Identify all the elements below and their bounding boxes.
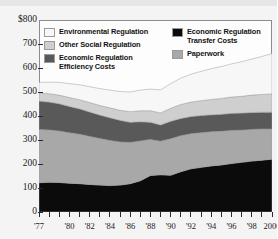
x-axis-labels: '77'80'82'84'86'88'90'92'94'96'982000 [0, 218, 277, 236]
y-axis-labels: $8007006005004003002001000 [0, 6, 37, 239]
legend-label-line2: Transfer Costs [187, 36, 237, 45]
y-tick-label: 200 [1, 158, 37, 168]
y-tick-mark [38, 116, 43, 117]
x-tick-mark [79, 212, 80, 217]
x-tick-mark [69, 212, 70, 217]
x-tick-mark [231, 212, 232, 217]
x-tick-mark [120, 212, 121, 217]
x-tick-mark [251, 212, 252, 217]
legend-swatch [44, 28, 55, 37]
x-tick-mark [49, 212, 50, 217]
x-tick-label: '80 [64, 221, 74, 231]
x-tick-label: '94 [206, 221, 216, 231]
legend-swatch [44, 41, 55, 50]
x-tick-mark [261, 212, 262, 217]
x-tick-mark [211, 212, 212, 217]
legend-label: Other Social Regulation [59, 40, 140, 49]
x-tick-mark [241, 212, 242, 217]
x-tick-label: '96 [226, 221, 236, 231]
y-tick-mark [38, 164, 43, 165]
x-tick-mark [190, 212, 191, 217]
legend-swatch [172, 50, 183, 59]
legend-label: Economic Regulation [59, 53, 133, 62]
y-tick-mark [38, 188, 43, 189]
y-tick-label: 300 [1, 134, 37, 144]
x-tick-mark [130, 212, 131, 217]
chart-legend: Environmental RegulationOther Social Reg… [44, 27, 269, 75]
legend-label: Paperwork [187, 49, 224, 58]
x-tick-mark [201, 212, 202, 217]
x-tick-mark [89, 212, 90, 217]
x-tick-label: '86 [125, 221, 135, 231]
stacked-area-chart: $8007006005004003002001000 '77'80'82'84'… [0, 6, 277, 239]
legend-label-line2: Efficiency Costs [59, 62, 115, 71]
x-tick-label: '84 [105, 221, 115, 231]
y-tick-label: 600 [1, 62, 37, 72]
x-tick-mark [140, 212, 141, 217]
x-tick-mark [170, 212, 171, 217]
legend-swatch [44, 54, 55, 63]
x-tick-label: '88 [145, 221, 155, 231]
y-tick-label: 100 [1, 182, 37, 192]
y-tick-mark [38, 140, 43, 141]
x-tick-mark [150, 212, 151, 217]
x-tick-label: 2000 [264, 221, 278, 231]
chart-screenshot: $8007006005004003002001000 '77'80'82'84'… [0, 0, 277, 239]
x-tick-mark [180, 212, 181, 217]
legend-label: Economic Regulation [187, 27, 261, 36]
x-tick-label: '90 [166, 221, 176, 231]
x-tick-label: '98 [247, 221, 257, 231]
y-tick-mark [38, 44, 43, 45]
x-tick-label: '82 [85, 221, 95, 231]
legend-swatch [172, 28, 183, 37]
x-tick-label: '77 [34, 221, 44, 231]
x-tick-mark [39, 212, 40, 217]
x-tick-label: '92 [186, 221, 196, 231]
y-tick-mark [38, 92, 43, 93]
x-tick-mark [99, 212, 100, 217]
y-tick-label: $800 [1, 14, 37, 24]
x-tick-mark [59, 212, 60, 217]
x-tick-mark [109, 212, 110, 217]
y-tick-mark [38, 68, 43, 69]
x-tick-mark [221, 212, 222, 217]
legend-label: Environmental Regulation [59, 27, 148, 36]
x-tick-mark [272, 212, 273, 217]
y-tick-label: 0 [1, 206, 37, 216]
x-tick-mark [160, 212, 161, 217]
y-tick-label: 400 [1, 110, 37, 120]
y-tick-label: 700 [1, 38, 37, 48]
y-tick-label: 500 [1, 86, 37, 96]
